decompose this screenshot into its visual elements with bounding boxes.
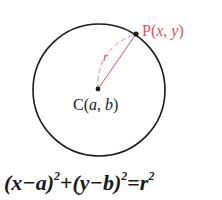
point-p-label: P(x, y) [142, 22, 184, 40]
circle-diagram: r P(x, y) C(a, b) (x−a)2+(y−b)2=r2 [0, 0, 222, 200]
center-point [96, 87, 101, 92]
center-label: C(a, b) [73, 96, 118, 114]
radius-label: r [103, 49, 109, 64]
point-p [133, 31, 138, 36]
circle-equation: (x−a)2+(y−b)2=r2 [4, 169, 154, 195]
